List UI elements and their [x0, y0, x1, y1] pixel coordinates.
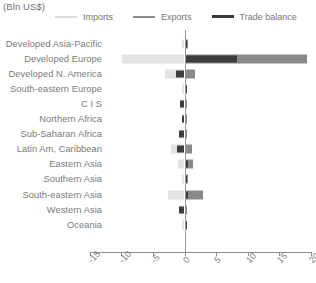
chart-row: Developed Europe [0, 51, 316, 66]
bar-exports [185, 145, 193, 154]
plot-area: Developed Asia-PacificDeveloped EuropeDe… [0, 30, 316, 252]
chart-row: Eastern Asia [0, 157, 316, 172]
bar-imports [168, 190, 184, 199]
category-label: Sub-Saharan Africa [20, 129, 102, 139]
legend-item-trade-balance[interactable]: Trade balance [212, 12, 316, 22]
bar-trade-balance [185, 55, 238, 62]
chart-row: South-eastern Europe [0, 81, 316, 96]
legend-item-label: Exports [161, 12, 192, 22]
bar-rows: Developed Asia-PacificDeveloped EuropeDe… [0, 30, 316, 252]
chart-row: Northern Africa [0, 112, 316, 127]
chart-row: South-eastern Asia [0, 187, 316, 202]
bar-imports [122, 54, 184, 63]
legend-item-label: Imports [83, 12, 113, 22]
x-axis-tick-label: 0 [181, 254, 192, 265]
bar-exports [185, 69, 196, 78]
bar-trade-balance [177, 146, 185, 153]
bar-trade-balance [176, 70, 184, 77]
x-axis-tick-label: 10 [244, 251, 258, 265]
chart-row: C I S [0, 96, 316, 111]
category-label: Developed Europe [24, 54, 102, 64]
chart-row: Developed N. America [0, 66, 316, 81]
chart-row: Sub-Saharan Africa [0, 127, 316, 142]
category-label: C I S [81, 99, 102, 109]
chart-unit-title: (Bln US$) [3, 1, 45, 12]
legend-swatch-icon [212, 15, 234, 18]
x-axis-tick-label: 5 [212, 254, 223, 265]
chart-row: Southern Asia [0, 172, 316, 187]
chart-row: Developed Asia-Pacific [0, 36, 316, 51]
category-label: Developed N. America [9, 69, 103, 79]
x-axis-tick-label: 20 [307, 251, 316, 265]
legend-swatch-icon [133, 16, 155, 18]
category-label: Northern Africa [39, 114, 102, 124]
chart-row: Oceania [0, 217, 316, 232]
legend-item-exports[interactable]: Exports [133, 12, 212, 22]
category-label: South-eastern Europe [10, 84, 102, 94]
category-label: Latin Am, Caribbean [17, 144, 102, 154]
x-axis: -15-10-505101520 [0, 252, 316, 283]
category-label: South-eastern Asia [23, 190, 102, 200]
chart-row: Latin Am, Caribbean [0, 142, 316, 157]
category-label: Western Asia [47, 205, 102, 215]
zero-axis-line [185, 30, 186, 252]
legend-item-imports[interactable]: Imports [55, 12, 133, 22]
chart-row: Western Asia [0, 202, 316, 217]
x-axis-tick-label: -5 [149, 252, 162, 265]
x-axis-tick-label: 15 [275, 251, 289, 265]
chart-legend: ImportsExportsTrade balance [55, 10, 316, 23]
category-label: Eastern Asia [49, 159, 102, 169]
legend-item-label: Trade balance [240, 12, 297, 22]
category-label: Developed Asia-Pacific [6, 39, 102, 49]
legend-swatch-icon [55, 16, 77, 18]
category-label: Southern Asia [43, 174, 102, 184]
category-label: Oceania [67, 220, 102, 230]
